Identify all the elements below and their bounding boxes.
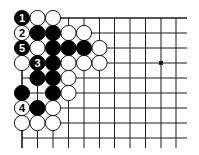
black-stone bbox=[76, 40, 91, 55]
white-stone bbox=[76, 55, 91, 70]
move-number-label: 2 bbox=[19, 27, 25, 39]
white-stone bbox=[14, 115, 29, 130]
white-stone bbox=[45, 10, 60, 25]
white-stone bbox=[61, 55, 76, 70]
white-stone bbox=[30, 115, 45, 130]
move-number-label: 3 bbox=[34, 57, 40, 69]
black-stone bbox=[45, 85, 60, 100]
white-stone bbox=[45, 115, 60, 130]
black-stone: 5 bbox=[14, 40, 29, 55]
white-stone bbox=[92, 55, 107, 70]
black-stone bbox=[45, 70, 60, 85]
hoshi-points bbox=[159, 61, 163, 65]
white-stone bbox=[76, 25, 91, 40]
black-stone bbox=[45, 25, 60, 40]
black-stone bbox=[30, 25, 45, 40]
go-board: 12534 bbox=[0, 0, 199, 155]
white-stone bbox=[92, 40, 107, 55]
move-number-label: 1 bbox=[19, 12, 25, 24]
white-stone bbox=[14, 55, 29, 70]
black-stone bbox=[30, 70, 45, 85]
white-stone: 2 bbox=[14, 25, 29, 40]
move-number-label: 5 bbox=[19, 42, 25, 54]
white-stone bbox=[30, 10, 45, 25]
white-stone bbox=[45, 100, 60, 115]
white-stone bbox=[30, 40, 45, 55]
white-stone bbox=[61, 70, 76, 85]
move-number-label: 4 bbox=[19, 102, 26, 114]
black-stone bbox=[14, 85, 29, 100]
hoshi-point bbox=[159, 61, 163, 65]
white-stone bbox=[61, 25, 76, 40]
black-stone bbox=[45, 55, 60, 70]
black-stone bbox=[61, 40, 76, 55]
black-stone: 3 bbox=[30, 55, 45, 70]
stones: 12534 bbox=[14, 10, 107, 130]
black-stone bbox=[30, 100, 45, 115]
black-stone: 1 bbox=[14, 10, 29, 25]
white-stone bbox=[61, 85, 76, 100]
black-stone bbox=[45, 40, 60, 55]
white-stone: 4 bbox=[14, 100, 29, 115]
